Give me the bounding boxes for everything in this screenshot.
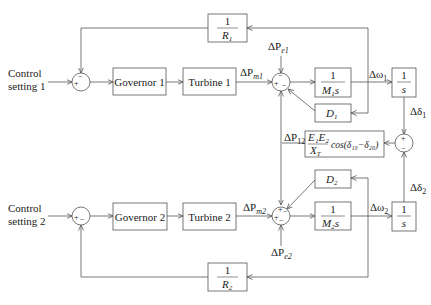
svg-text:Turbine 2: Turbine 2 xyxy=(188,211,231,223)
svg-text:1: 1 xyxy=(225,264,231,276)
integrator-1-block: 1 s xyxy=(392,68,416,97)
inertia-1-block: 1 M1s xyxy=(315,68,351,98)
svg-text:1: 1 xyxy=(330,203,336,215)
summing-junction-1: + − xyxy=(72,72,90,91)
svg-text:1: 1 xyxy=(401,69,407,81)
turbine-1-block: Turbine 1 xyxy=(183,68,236,95)
link-d2-sum5 xyxy=(287,180,315,209)
summing-junction-3: + − xyxy=(395,134,413,153)
signal-delta1: Δδ1 xyxy=(410,105,426,120)
svg-text:−: − xyxy=(80,215,85,224)
svg-text:M2s: M2s xyxy=(321,217,339,231)
signal-pe1: ΔPe1 xyxy=(268,40,289,55)
governor-1-block: Governor 1 xyxy=(113,68,166,95)
svg-text:Turbine 1: Turbine 1 xyxy=(188,76,231,88)
link-w1-d1 xyxy=(351,82,368,113)
svg-text:−: − xyxy=(401,144,406,153)
block-diagram: Control setting 1 + − Governor 1 Turbine… xyxy=(0,0,431,305)
svg-text:setting 2: setting 2 xyxy=(8,215,46,227)
svg-text:1: 1 xyxy=(401,203,407,215)
svg-text:−: − xyxy=(282,81,287,90)
droop-r1-block: 1 R1 xyxy=(208,14,247,43)
svg-text:Control: Control xyxy=(8,202,42,214)
integrator-2-block: 1 s xyxy=(392,202,416,231)
svg-text:−: − xyxy=(279,216,284,225)
input-label-2: Control setting 2 xyxy=(8,202,46,227)
svg-text:1: 1 xyxy=(225,15,231,27)
svg-text:+: + xyxy=(74,213,79,222)
svg-text:E₁E₂: E₁E₂ xyxy=(307,131,329,143)
svg-text:Control: Control xyxy=(8,67,42,79)
governor-2-block: Governor 2 xyxy=(113,203,167,230)
svg-text:−: − xyxy=(278,71,283,80)
signal-pm2: ΔPm2 xyxy=(243,201,266,216)
input-label-1: Control setting 1 xyxy=(8,67,46,92)
svg-text:cos(δ₁₀−δ₂₀): cos(δ₁₀−δ₂₀) xyxy=(331,140,378,151)
svg-text:s: s xyxy=(402,217,406,229)
turbine-2-block: Turbine 2 xyxy=(183,203,236,230)
signal-pe2: ΔPe2 xyxy=(271,246,292,261)
svg-text:−: − xyxy=(78,72,83,81)
signal-pm1: ΔPm1 xyxy=(240,66,263,81)
inertia-2-block: 1 M2s xyxy=(315,202,351,231)
svg-text:1: 1 xyxy=(330,69,336,81)
link-r2-sum4 xyxy=(81,225,208,277)
link-r1-sum1 xyxy=(81,28,208,73)
summing-junction-5: + + − − xyxy=(272,205,290,225)
signal-w2: Δω2 xyxy=(370,201,388,216)
signal-p12: ΔP12 xyxy=(284,131,305,146)
damping-d2-block: D2 xyxy=(315,170,351,188)
svg-text:+: + xyxy=(274,79,279,88)
svg-text:setting 1: setting 1 xyxy=(8,80,46,92)
signal-w1: Δω1 xyxy=(369,68,387,83)
droop-r2-block: 1 R2 xyxy=(208,263,247,292)
svg-text:M1s: M1s xyxy=(321,84,339,98)
tie-line-block: E₁E₂ XT cos(δ₁₀−δ₂₀) xyxy=(305,131,384,158)
summing-junction-4: + − xyxy=(72,207,90,225)
link-d1-sum2 xyxy=(288,89,315,111)
svg-text:Governor 2: Governor 2 xyxy=(115,211,165,223)
svg-text:Governor 1: Governor 1 xyxy=(114,76,164,88)
summing-junction-2: + − − xyxy=(272,71,290,91)
svg-text:+: + xyxy=(401,134,406,143)
link-w2-d2 xyxy=(351,178,368,216)
damping-d1-block: D1 xyxy=(315,104,351,122)
svg-text:s: s xyxy=(402,83,406,95)
signal-delta2: Δδ2 xyxy=(410,181,426,196)
